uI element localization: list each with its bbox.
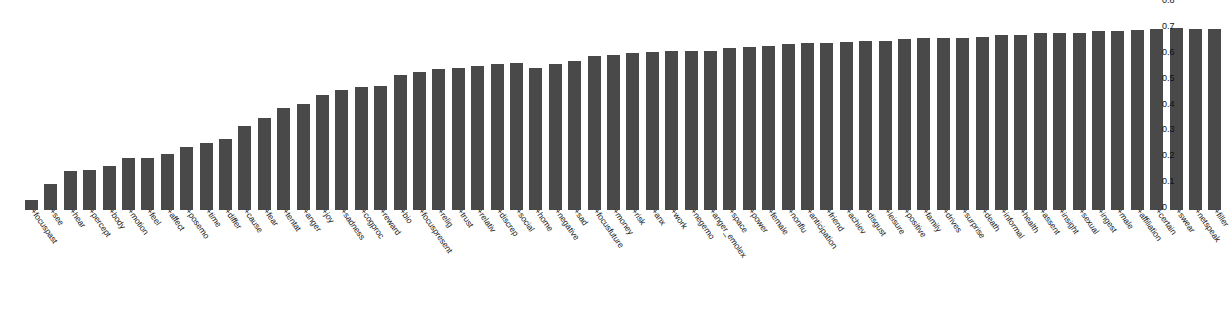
bar — [200, 143, 213, 210]
bar — [355, 87, 368, 210]
y-axis-tick-label: 0.5 — [1162, 74, 1175, 83]
x-axis-tick-label: +affect — [164, 207, 186, 233]
bar — [898, 39, 911, 210]
x-axis-tick-label: +risk — [630, 207, 648, 227]
bar — [626, 53, 639, 210]
x-axis-tick-label: +joy — [320, 207, 336, 225]
x-axis-tick-label: +differ — [223, 207, 244, 231]
bar — [723, 48, 736, 210]
x-axis-tick-label: +anx — [649, 207, 667, 227]
bar — [258, 118, 271, 210]
x-axis-tick-label: +sad — [572, 207, 590, 227]
bar — [413, 72, 426, 210]
bar — [1208, 29, 1221, 210]
y-axis-tick-label: 0.8 — [1162, 0, 1175, 5]
bar — [685, 51, 698, 210]
bar — [801, 43, 814, 210]
x-axis-tick-label: +see — [48, 207, 66, 227]
x-axis-labels: +focuspast+see+hear+percept+body+motion+… — [0, 207, 1160, 317]
y-axis-tick-label: 0.2 — [1162, 151, 1175, 160]
x-axis-tick-label: +feel — [145, 207, 163, 227]
x-axis-tick-label: +tentat — [281, 207, 303, 233]
bar — [549, 64, 562, 210]
bar — [316, 95, 329, 210]
bar — [491, 64, 504, 210]
bar — [1111, 31, 1124, 210]
x-axis-tick-label: +bio — [397, 207, 414, 225]
bar — [374, 86, 387, 210]
x-axis-tick-label: +work — [669, 207, 689, 231]
x-axis-tick-label: +trust — [455, 207, 474, 229]
y-axis: 0.80.70.60.50.40.30.20.10 — [1158, 0, 1188, 212]
bar — [840, 42, 853, 210]
bar — [161, 154, 174, 210]
bar — [607, 55, 620, 210]
bar — [64, 171, 77, 210]
bar — [879, 41, 892, 210]
bar — [646, 52, 659, 210]
bar — [1189, 29, 1202, 210]
bar — [1073, 33, 1086, 210]
y-axis-tick-label: 0.7 — [1162, 22, 1175, 31]
bar — [568, 61, 581, 210]
bar — [238, 126, 251, 210]
bar — [1014, 35, 1027, 210]
bar — [103, 166, 116, 210]
y-axis-tick-label: 0.1 — [1162, 177, 1175, 186]
bar — [510, 63, 523, 210]
y-axis-tick-label: 0.4 — [1162, 100, 1175, 109]
bar — [820, 43, 833, 210]
bar — [704, 51, 717, 210]
bar — [297, 104, 310, 210]
x-axis-tick-label: +home — [533, 207, 555, 233]
bar — [782, 44, 795, 210]
bar — [743, 47, 756, 210]
bar — [917, 38, 930, 210]
bar — [937, 38, 950, 210]
x-axis-tick-label: +time — [203, 207, 222, 229]
y-axis-tick-label: 0.3 — [1162, 125, 1175, 134]
bar — [859, 41, 872, 210]
bar — [529, 68, 542, 210]
bar — [588, 56, 601, 210]
bar — [432, 69, 445, 210]
x-axis-tick-label: +fear — [261, 207, 279, 228]
bar — [180, 147, 193, 210]
bar — [976, 37, 989, 210]
bar — [995, 35, 1008, 210]
bar — [665, 51, 678, 210]
bar — [394, 75, 407, 210]
bar — [277, 108, 290, 210]
bar — [122, 158, 135, 210]
bar — [335, 90, 348, 210]
bar — [1034, 33, 1047, 210]
x-axis-tick-label: +hear — [67, 207, 87, 230]
bar — [219, 139, 232, 210]
bar — [1092, 31, 1105, 210]
bar — [1053, 33, 1066, 210]
bar — [452, 68, 465, 210]
bar — [956, 38, 969, 210]
bar — [1131, 30, 1144, 210]
y-axis-tick-label: 0.6 — [1162, 48, 1175, 57]
bar — [471, 66, 484, 210]
bar — [83, 170, 96, 210]
x-axis-tick-label: +filler — [1212, 207, 1231, 228]
bar — [762, 46, 775, 210]
plot-area — [0, 0, 1160, 210]
bar — [141, 158, 154, 210]
